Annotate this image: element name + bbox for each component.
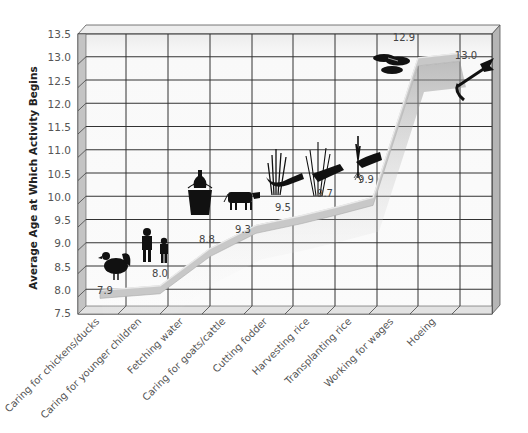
x-tick-label: Caring for goats/cattle: [140, 316, 227, 403]
y-axis-title: Average Age at Which Activity Begins: [27, 66, 39, 289]
line-chart: 7.58.08.59.09.510.010.511.011.512.012.51…: [0, 0, 528, 433]
y-tick-label: 7.5: [54, 307, 71, 319]
y-tick-label: 13.5: [48, 28, 71, 40]
value-label: 7.9: [97, 285, 113, 296]
y-tick-label: 11.0: [48, 144, 71, 156]
value-label: 13.0: [455, 50, 477, 61]
value-label: 9.9: [358, 174, 374, 185]
y-tick-label: 11.5: [48, 121, 71, 133]
value-label: 9.7: [317, 188, 333, 199]
value-label: 9.3: [235, 224, 251, 235]
x-axis-labels: Caring for chickens/ducksCaring for youn…: [3, 315, 438, 421]
x-tick-label: Working for wages: [322, 316, 395, 389]
y-tick-label: 9.0: [54, 237, 71, 249]
value-label: 12.9: [393, 32, 415, 43]
y-tick-label: 8.0: [54, 284, 71, 296]
y-tick-label: 8.5: [54, 261, 71, 273]
y-tick-label: 12.0: [48, 98, 71, 110]
y-tick-label: 10.0: [48, 191, 71, 203]
y-tick-label: 10.5: [48, 168, 71, 180]
value-label: 8.0: [152, 268, 168, 279]
y-axis-ticks: 7.58.08.59.09.510.010.511.011.512.012.51…: [48, 28, 71, 319]
y-tick-label: 9.5: [54, 214, 71, 226]
value-label: 8.8: [199, 234, 215, 245]
value-label: 9.5: [275, 202, 291, 213]
x-tick-label: Hoeing: [405, 316, 438, 349]
y-tick-label: 12.5: [48, 75, 71, 87]
y-tick-label: 13.0: [48, 51, 71, 63]
